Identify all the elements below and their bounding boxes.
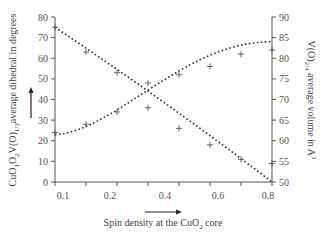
x-tick-label: 0.2	[104, 190, 117, 201]
left-y-tick-label: 40	[38, 94, 48, 105]
left-y-tick-label: 20	[38, 135, 48, 146]
x-tick-label: 0.6	[212, 190, 225, 201]
trend-lines	[55, 27, 272, 182]
plus-marker-icon	[114, 109, 120, 115]
plus-marker-icon	[145, 80, 151, 86]
right-y-axis-title: V(O)2/4 average volume in A3	[303, 40, 318, 160]
left-y-axis-title: CuO1O2V(O)1/3average dihedral in degrees	[7, 13, 21, 186]
plus-marker-icon	[176, 125, 182, 131]
plus-marker-icon	[52, 24, 58, 30]
x-direction-arrow-icon	[145, 210, 182, 215]
x-axis-title: Spin density at the CuO2 core	[104, 217, 223, 231]
left-y-axis-ticks: 01020304050607080	[38, 12, 55, 188]
right-y-tick-label: 65	[279, 115, 289, 126]
left-y-tick-label: 30	[38, 115, 48, 126]
left-y-tick-label: 0	[43, 177, 48, 188]
axes	[55, 17, 272, 182]
left-y-tick-label: 10	[38, 156, 48, 167]
volume-trend-line	[55, 42, 272, 135]
plus-marker-icon	[83, 121, 89, 127]
x-tick-label: 0.8	[262, 190, 275, 201]
right-y-tick-label: 80	[279, 53, 289, 64]
left-y-tick-label: 70	[38, 32, 48, 43]
x-tick-label: 0.1	[57, 190, 70, 201]
plus-marker-icon	[176, 72, 182, 78]
plus-marker-icon	[269, 47, 275, 53]
right-y-tick-label: 85	[279, 32, 289, 43]
right-y-tick-label: 55	[279, 156, 289, 167]
right-y-tick-label: 50	[279, 177, 289, 188]
x-tick-label: 0.4	[159, 190, 172, 201]
right-y-tick-label: 90	[279, 12, 289, 23]
plus-marker-icon	[145, 105, 151, 111]
left-y-tick-label: 50	[38, 73, 48, 84]
dual-axis-chart: 01020304050607080 505560657075808590 0.1…	[0, 0, 325, 235]
left-y-tick-label: 80	[38, 12, 48, 23]
right-y-tick-label: 70	[279, 94, 289, 105]
plus-marker-icon	[52, 130, 58, 136]
left-y-tick-label: 60	[38, 53, 48, 64]
x-axis-ticks: 0.10.20.40.60.8	[55, 182, 274, 201]
dihedral-trend-line	[55, 27, 272, 182]
right-y-axis-ticks: 505560657075808590	[272, 12, 289, 188]
plus-marker-icon	[207, 64, 213, 70]
y-direction-arrow-icon	[29, 87, 34, 118]
plus-marker-icon	[238, 51, 244, 57]
right-y-tick-label: 75	[279, 73, 289, 84]
right-y-tick-label: 60	[279, 135, 289, 146]
plus-marker-icon	[207, 142, 213, 148]
